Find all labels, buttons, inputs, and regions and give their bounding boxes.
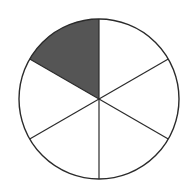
fraction-circle-figure: One of six equal parts shaded bbox=[0, 0, 194, 194]
fraction-circle-svg bbox=[0, 0, 194, 194]
